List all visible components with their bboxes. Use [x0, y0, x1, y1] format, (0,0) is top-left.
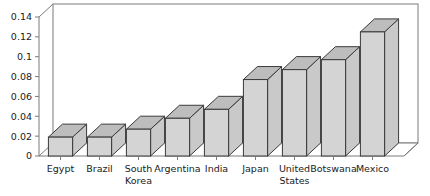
x-tick-label: Egypt	[47, 163, 75, 174]
bar-front-face	[243, 80, 267, 156]
x-tick-label: United	[279, 163, 310, 174]
bar-front-face	[204, 109, 228, 156]
bar-side-face	[268, 67, 282, 156]
chart-canvas: 00.020.040.060.080.10.120.14EgyptBrazilS…	[0, 0, 430, 196]
bar-side-face	[307, 57, 321, 156]
bar-front-face	[165, 118, 189, 156]
bar-front-face	[360, 32, 384, 156]
bar-japan	[243, 67, 281, 156]
x-tick-label: Korea	[125, 175, 152, 186]
x-tick-label: Japan	[241, 163, 269, 174]
bar-front-face	[282, 70, 306, 156]
y-tick-label: 0.06	[11, 91, 32, 102]
x-tick-label: South	[125, 163, 153, 174]
y-tick-label: 0.04	[11, 111, 32, 122]
x-tick-label: States	[279, 175, 309, 186]
bar-chart: 00.020.040.060.080.10.120.14EgyptBrazilS…	[0, 0, 430, 196]
y-tick-label: 0.1	[17, 51, 32, 62]
bar-botswana	[321, 47, 359, 156]
x-tick-label: Brazil	[86, 163, 113, 174]
bar-front-face	[321, 60, 345, 156]
x-tick-label: Mexico	[356, 163, 389, 174]
bar-front-face	[48, 137, 72, 156]
x-axis: EgyptBrazilSouthKoreaArgentinaIndiaJapan…	[47, 156, 389, 186]
x-tick-label: Botswana	[310, 163, 356, 174]
bar-side-face	[385, 19, 399, 156]
x-tick-label: Argentina	[154, 163, 200, 174]
bar-india	[204, 96, 242, 156]
bar-side-face	[346, 47, 360, 156]
y-axis-depth-edge	[39, 4, 53, 17]
bar-united-states	[282, 57, 320, 156]
y-tick-label: 0.02	[11, 131, 32, 142]
x-tick-label: India	[205, 163, 228, 174]
y-tick-label: 0	[26, 150, 32, 161]
bar-front-face	[87, 137, 111, 156]
bar-mexico	[360, 19, 398, 156]
y-tick-label: 0.08	[11, 71, 32, 82]
bar-front-face	[126, 129, 150, 156]
y-tick-label: 0.12	[11, 31, 32, 42]
y-tick-label: 0.14	[11, 11, 32, 22]
y-axis: 00.020.040.060.080.10.120.14	[11, 11, 39, 161]
bar-argentina	[165, 105, 203, 156]
